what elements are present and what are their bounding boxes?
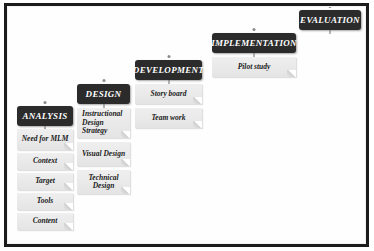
picture-frame-inner: ANALYSIS Need for MLM Context Target Too… <box>7 6 366 244</box>
stage-item-label: Tools <box>37 197 53 205</box>
stage-header-analysis[interactable]: ANALYSIS <box>17 106 73 126</box>
stage-analysis: ANALYSIS Need for MLM Context Target Too… <box>17 106 73 230</box>
stage-implementation: IMPLEMENTATION Pilot study <box>212 33 296 77</box>
stage-header-label: DESIGN <box>86 89 122 99</box>
stage-header-implementation[interactable]: IMPLEMENTATION <box>212 33 296 53</box>
stage-design: DESIGN Instructional Design Strategy Vis… <box>77 84 130 194</box>
stage-item-label: Pilot study <box>238 63 271 71</box>
stage-header-design[interactable]: DESIGN <box>77 84 130 104</box>
stage-item-label: Visual Design <box>82 150 125 158</box>
stage-item-development-1[interactable]: Story board <box>135 84 202 104</box>
connector-dot-top-icon <box>329 6 332 8</box>
stage-evaluation: EVALUATION <box>299 10 361 30</box>
stage-item-label: Team work <box>151 114 185 122</box>
stage-item-label: Story board <box>150 90 186 98</box>
stage-item-design-1[interactable]: Instructional Design Strategy <box>77 108 130 138</box>
stage-item-implementation-1[interactable]: Pilot study <box>212 57 296 77</box>
stage-header-evaluation[interactable]: EVALUATION <box>299 10 361 30</box>
stage-development: DEVELOPMENT Story board Team work <box>135 60 202 128</box>
stage-item-label: Context <box>33 157 57 165</box>
stage-header-label: EVALUATION <box>300 15 360 25</box>
stage-header-label: ANALYSIS <box>22 111 67 121</box>
stage-item-design-3[interactable]: Technical Design <box>77 170 130 194</box>
stage-item-analysis-4[interactable]: Tools <box>17 193 73 210</box>
connector-dot-top-icon <box>167 55 170 58</box>
stage-item-development-2[interactable]: Team work <box>135 108 202 128</box>
connector-dot-top-icon <box>102 79 105 82</box>
stage-item-design-2[interactable]: Visual Design <box>77 142 130 166</box>
stage-item-analysis-5[interactable]: Content <box>17 213 73 230</box>
stage-header-label: DEVELOPMENT <box>133 65 204 75</box>
stage-item-analysis-2[interactable]: Context <box>17 153 73 170</box>
stage-item-label: Target <box>35 177 55 185</box>
connector-nub-bottom-icon <box>330 30 331 34</box>
diagram-canvas: ANALYSIS Need for MLM Context Target Too… <box>0 0 374 251</box>
stage-item-label: Technical Design <box>81 174 126 191</box>
stage-item-label: Instructional Design Strategy <box>82 110 126 135</box>
stage-header-label: IMPLEMENTATION <box>211 38 297 48</box>
stage-item-analysis-1[interactable]: Need for MLM <box>17 129 73 150</box>
stage-header-development[interactable]: DEVELOPMENT <box>135 60 202 80</box>
stage-item-label: Content <box>33 217 58 225</box>
connector-dot-top-icon <box>44 101 47 104</box>
stage-item-label: Need for MLM <box>22 135 69 143</box>
connector-dot-top-icon <box>253 28 256 31</box>
stage-item-analysis-3[interactable]: Target <box>17 173 73 190</box>
